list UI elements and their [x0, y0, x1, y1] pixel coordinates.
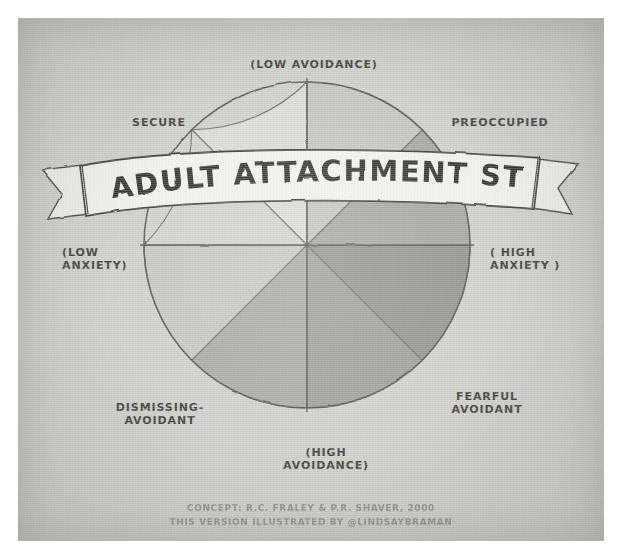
style-label-preoccupied: PREOCCUPIED	[430, 116, 570, 129]
axis-label-high-anxiety: ( HIGH ANXIETY )	[490, 246, 595, 272]
style-label-fearful-avoidant: FEARFUL AVOIDANT	[422, 390, 552, 416]
credit-line-illustrator: THIS VERSION ILLUSTRATED BY @LINDSAYBRAM…	[18, 515, 604, 529]
axis-label-low-anxiety: (LOW ANXIETY)	[62, 246, 162, 272]
credits: CONCEPT: R.C. FRALEY & P.R. SHAVER, 2000…	[18, 501, 604, 529]
paper-background: ADULT ATTACHMENT STYLES (LOW AVOIDANCE) …	[18, 18, 604, 541]
axis-label-high-avoidance: (HIGH AVOIDANCE)	[246, 446, 406, 472]
style-label-secure: SECURE	[104, 116, 214, 129]
style-label-dismissing-avoidant: DISMISSING- AVOIDANT	[80, 401, 240, 427]
axis-label-low-avoidance: (LOW AVOIDANCE)	[224, 58, 404, 71]
credit-line-concept: CONCEPT: R.C. FRALEY & P.R. SHAVER, 2000	[18, 501, 604, 515]
image-canvas: ADULT ATTACHMENT STYLES (LOW AVOIDANCE) …	[0, 0, 622, 559]
